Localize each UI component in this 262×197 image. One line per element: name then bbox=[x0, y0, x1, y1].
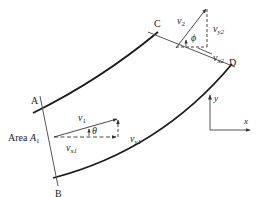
v2-label: v2 bbox=[177, 15, 185, 28]
label-d: D bbox=[229, 57, 236, 68]
vx2-label: vx2 bbox=[213, 52, 225, 65]
x-axis-label: x bbox=[243, 116, 248, 126]
y-axis-label: y bbox=[213, 93, 218, 103]
v1-label: v1 bbox=[78, 112, 86, 125]
vy1-label: vy1 bbox=[130, 133, 141, 146]
label-a: A bbox=[31, 95, 39, 106]
upper-wall bbox=[33, 32, 158, 113]
vx1-label: vx1 bbox=[66, 142, 77, 155]
vy2-label: vy2 bbox=[213, 23, 225, 36]
label-c: C bbox=[154, 18, 161, 29]
theta-label: θ bbox=[92, 125, 97, 136]
phi-label: ϕ bbox=[191, 32, 196, 43]
section-line-ab bbox=[40, 96, 58, 186]
label-b: B bbox=[55, 188, 62, 197]
area-label: Area A1 bbox=[8, 132, 40, 145]
flow-diagram: A B C D Area A1 v1 θ vx1 vy1 v2 ϕ vy2 vx… bbox=[0, 0, 262, 197]
